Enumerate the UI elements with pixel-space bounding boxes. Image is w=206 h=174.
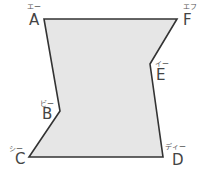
vertex-label-a: エー A [27, 3, 41, 29]
letter-d: D [172, 151, 184, 169]
letter-e: E [156, 66, 165, 84]
vertex-label-e: イー E [155, 60, 169, 84]
reading-f: エフ [183, 3, 197, 11]
letter-b: B [42, 105, 52, 123]
hexagon-shape [29, 19, 177, 157]
vertex-label-b: ビー B [40, 99, 54, 123]
letter-f: F [183, 11, 192, 29]
reading-a: エー [27, 3, 41, 11]
vertex-label-d: ディー D [165, 142, 186, 169]
vertex-label-f: エフ F [183, 3, 197, 29]
hexagon-diagram: エー A エフ F イー E ビー B シー C ディー D [0, 0, 206, 174]
letter-c: C [15, 150, 25, 168]
reading-d: ディー [165, 142, 186, 151]
letter-a: A [29, 11, 40, 29]
vertex-label-c: シー C [9, 145, 25, 168]
